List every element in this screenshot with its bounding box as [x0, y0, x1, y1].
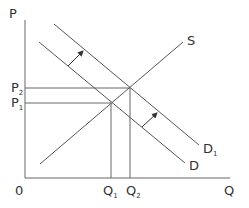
demand-shifted-label: D1 [203, 141, 217, 158]
shift-arrow-upper [68, 51, 83, 66]
supply-demand-diagram: P Q 0 P2 P1 Q1 Q2 S D D1 [0, 0, 249, 208]
q1-label: Q1 [103, 183, 118, 200]
demand-label: D [189, 158, 199, 173]
shift-arrow-lower [142, 113, 157, 127]
x-axis-label: Q [224, 183, 234, 198]
p1-label: P1 [11, 95, 23, 112]
q2-label: Q2 [126, 183, 141, 200]
y-axis-label: P [9, 6, 17, 21]
origin-label: 0 [15, 183, 23, 198]
demand-shifted-curve [54, 24, 199, 145]
supply-label: S [187, 33, 195, 48]
